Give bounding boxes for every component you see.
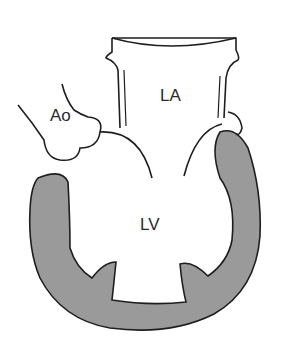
left-atrium: [106, 38, 239, 128]
label-aorta: Ao: [50, 106, 71, 126]
aortic-valve-curve: [100, 132, 152, 178]
heart-diagram: [0, 0, 281, 351]
label-left-ventricle: LV: [140, 215, 160, 235]
label-left-atrium: LA: [160, 86, 181, 106]
